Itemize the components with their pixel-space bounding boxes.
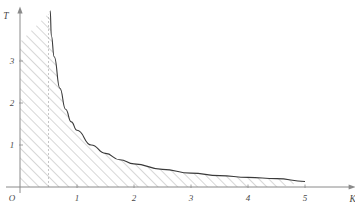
x-tick-label: 2 [132, 193, 137, 203]
y-tick-label: 3 [9, 56, 15, 66]
y-tick-label: 2 [10, 98, 15, 108]
x-tick-label: 5 [303, 193, 308, 203]
y-axis-arrowhead [17, 7, 22, 14]
x-tick-label: 1 [75, 193, 80, 203]
x-axis-label: K [348, 194, 355, 204]
hyperbola-area-chart: 12345123TKO [0, 0, 355, 210]
chart-canvas: 12345123TKO [0, 0, 355, 210]
y-tick-label: 1 [10, 140, 15, 150]
x-tick-label: 4 [246, 193, 251, 203]
x-axis-arrowhead [349, 184, 355, 189]
origin-label: O [9, 193, 16, 203]
y-axis-label: T [3, 11, 9, 21]
x-tick-label: 3 [188, 193, 194, 203]
